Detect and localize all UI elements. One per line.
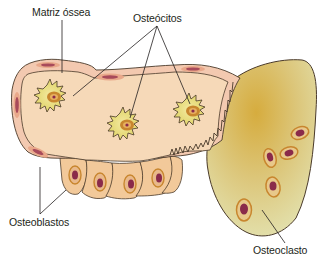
label-matrix: Matriz óssea [32,6,90,18]
osteoclast-nucleus [237,199,252,221]
label-osteoblasts: Osteoblastos [9,216,69,228]
osteoblast-nucleus [69,166,81,184]
osteoblast-nucleus [124,175,136,193]
osteoblast-row [60,156,183,199]
label-osteoclast: Osteoclasto [253,244,307,256]
label-osteocytes: Osteócitos [133,12,182,24]
osteoblast-nucleus [152,169,164,187]
osteoblast-nucleus [94,173,106,191]
